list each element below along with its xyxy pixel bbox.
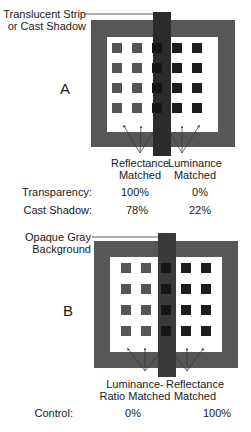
callout-line2: or Cast Shadow [0, 20, 86, 32]
panel-b-right-label: Reflectance Matched [150, 378, 240, 402]
panel-b-callout-label: Opaque Gray Background [0, 231, 91, 255]
panel-b-control-right: 100% [197, 407, 237, 419]
panel-b-row-label-control: Control: [0, 407, 73, 419]
label-line1: Luminance [150, 157, 240, 169]
panel-a-right-label: Luminance Matched [150, 157, 240, 181]
panel-a-cast-shadow-left: 78% [117, 204, 157, 216]
label-line2: Matched [150, 390, 240, 402]
callout-line1: Translucent Strip [0, 8, 86, 20]
panel-a-row-label-cast-shadow: Cast Shadow: [0, 204, 92, 216]
panel-a-transparency-right: 0% [180, 186, 220, 198]
panel-b-stimulus [92, 233, 238, 377]
panel-a-stimulus [85, 12, 235, 156]
callout-line2: Background [0, 243, 91, 255]
label-line1: Reflectance [150, 378, 240, 390]
panel-a-cast-shadow-right: 22% [180, 204, 220, 216]
panel-a-transparency-left: 100% [115, 186, 155, 198]
stimulus-diagram [0, 0, 251, 432]
panel-a-row-label-transparency: Transparency: [0, 186, 92, 198]
panel-a-letter: A [60, 80, 70, 97]
callout-line1: Opaque Gray [0, 231, 91, 243]
label-line2: Matched [150, 169, 240, 181]
panel-b-letter: B [63, 302, 73, 319]
panel-a-callout-label: Translucent Strip or Cast Shadow [0, 8, 86, 32]
panel-b-control-left: 0% [113, 407, 153, 419]
